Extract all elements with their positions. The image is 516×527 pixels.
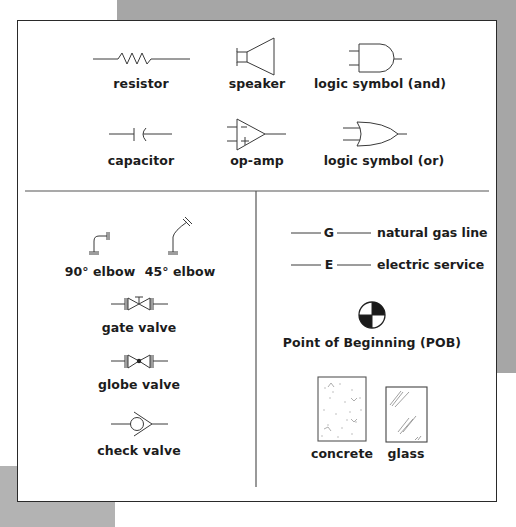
gas-line-code: G bbox=[324, 225, 334, 240]
and-gate-icon bbox=[349, 44, 402, 72]
label-gate-valve: gate valve bbox=[102, 320, 177, 335]
label-capacitor: capacitor bbox=[108, 153, 175, 168]
elbow-90-icon bbox=[89, 232, 109, 254]
label-concrete: concrete bbox=[311, 446, 373, 461]
label-check-valve: check valve bbox=[97, 443, 180, 458]
label-glass: glass bbox=[387, 446, 424, 461]
check-valve-icon bbox=[111, 412, 168, 436]
or-gate-icon bbox=[343, 122, 407, 146]
label-op-amp: op-amp bbox=[230, 153, 284, 168]
label-speaker: speaker bbox=[229, 76, 286, 91]
point-of-beginning-icon bbox=[359, 302, 385, 328]
capacitor-icon bbox=[109, 128, 172, 141]
op-amp-icon bbox=[227, 119, 286, 150]
label-resistor: resistor bbox=[113, 76, 168, 91]
label-pob: Point of Beginning (POB) bbox=[283, 335, 461, 350]
label-elbow-90: 90° elbow bbox=[65, 264, 136, 279]
label-elbow-45: 45° elbow bbox=[145, 264, 216, 279]
gate-valve-icon bbox=[111, 297, 168, 310]
resistor-icon bbox=[93, 53, 190, 64]
glass-hatch-icon bbox=[386, 387, 427, 442]
electric-line-code: E bbox=[325, 257, 334, 272]
label-and-gate: logic symbol (and) bbox=[314, 76, 446, 91]
label-electric-service: electric service bbox=[377, 257, 484, 272]
label-gas-line: natural gas line bbox=[377, 225, 488, 240]
concrete-hatch-icon bbox=[318, 377, 366, 441]
label-or-gate: logic symbol (or) bbox=[324, 153, 445, 168]
elbow-45-icon bbox=[168, 217, 192, 254]
label-globe-valve: globe valve bbox=[98, 377, 180, 392]
speaker-icon bbox=[237, 38, 274, 75]
globe-valve-icon bbox=[111, 355, 168, 368]
